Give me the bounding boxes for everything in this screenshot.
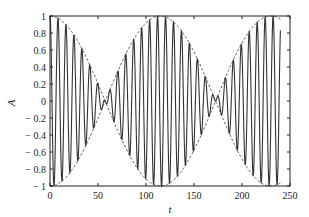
x-tick-label: 100 — [139, 190, 154, 201]
chart: 10.80.60.40.20− 0.2− 0.4− 0.6− 0.8− 1 05… — [0, 0, 309, 217]
y-tick-label: 0.4 — [34, 62, 47, 73]
x-tick-label: 200 — [235, 190, 250, 201]
y-tick-label: − 0.6 — [25, 147, 46, 158]
y-tick-label: − 0.2 — [25, 113, 46, 124]
y-tick-label: 0.2 — [34, 79, 47, 90]
x-tick-label: 0 — [48, 190, 53, 201]
x-tick-label: 150 — [187, 190, 202, 201]
x-tick-label: 50 — [93, 190, 103, 201]
y-tick-label: 0.6 — [34, 45, 47, 56]
y-tick-labels: 10.80.60.40.20− 0.2− 0.4− 0.6− 0.8− 1 — [25, 11, 46, 192]
x-axis-label: t — [168, 203, 172, 215]
x-tick-label: 250 — [283, 190, 298, 201]
y-tick-label: − 0.8 — [25, 164, 46, 175]
y-tick-label: − 1 — [33, 181, 46, 192]
y-tick-label: − 0.4 — [25, 130, 46, 141]
y-tick-label: 0.8 — [34, 28, 47, 39]
y-tick-label: 0 — [41, 96, 46, 107]
y-axis-label: A — [5, 99, 17, 107]
y-tick-label: 1 — [41, 11, 46, 22]
signal-line — [50, 16, 280, 186]
plot-lines — [50, 16, 280, 186]
x-tick-labels: 050100150200250 — [48, 190, 298, 201]
